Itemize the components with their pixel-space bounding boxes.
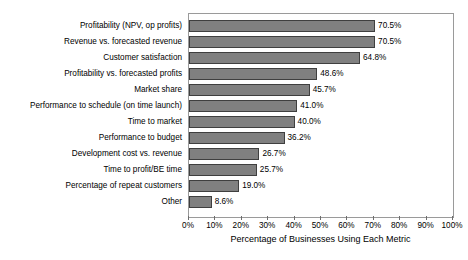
category-label-row: Time to market <box>0 113 185 129</box>
bar-value-label: 40.0% <box>295 116 321 128</box>
bar-value-label: 8.6% <box>212 196 234 208</box>
x-tick-mark <box>426 216 427 220</box>
x-tick-mark <box>188 216 189 220</box>
bar <box>189 116 295 128</box>
bar-row: 26.7% <box>189 146 453 162</box>
category-label-row: Market share <box>0 81 185 97</box>
x-tick-label: 30% <box>259 221 275 231</box>
category-label-row: Profitability (NPV, op profits) <box>0 17 185 33</box>
category-label: Revenue vs. forecasted revenue <box>64 37 185 46</box>
bar-value-label: 25.7% <box>257 164 283 176</box>
bar-chart: Profitability (NPV, op profits)Revenue v… <box>0 0 468 260</box>
bar <box>189 68 317 80</box>
x-tick-label: 0% <box>182 221 194 231</box>
x-tick-label: 70% <box>365 221 381 231</box>
bar-value-label: 26.7% <box>259 148 285 160</box>
category-label-row: Other <box>0 193 185 209</box>
bar-value-label: 36.2% <box>285 132 311 144</box>
bar-row: 45.7% <box>189 82 453 98</box>
bar <box>189 180 239 192</box>
bar-row: 41.0% <box>189 98 453 114</box>
plot-area: 70.5%70.5%64.8%48.6%45.7%41.0%40.0%36.2%… <box>188 13 454 218</box>
x-tick-mark <box>267 216 268 220</box>
x-tick-label: 20% <box>233 221 249 231</box>
x-tick-label: 100% <box>442 221 463 231</box>
x-tick-mark <box>214 216 215 220</box>
bar <box>189 164 257 176</box>
bar-value-label: 41.0% <box>297 100 323 112</box>
category-label: Customer satisfaction <box>103 53 185 62</box>
category-label: Other <box>162 197 185 206</box>
bar-value-label: 70.5% <box>375 36 401 48</box>
x-tick-label: 60% <box>338 221 354 231</box>
bar-row: 8.6% <box>189 194 453 210</box>
x-tick-label: 10% <box>206 221 222 231</box>
x-tick-mark <box>294 216 295 220</box>
x-tick-mark <box>320 216 321 220</box>
bar <box>189 36 375 48</box>
bar-row: 70.5% <box>189 18 453 34</box>
x-tick-mark <box>241 216 242 220</box>
category-label-row: Revenue vs. forecasted revenue <box>0 33 185 49</box>
bar <box>189 52 360 64</box>
bar-row: 70.5% <box>189 34 453 50</box>
category-label: Performance to schedule (on time launch) <box>30 101 185 110</box>
category-label-row: Performance to schedule (on time launch) <box>0 97 185 113</box>
x-tick-label: 90% <box>417 221 433 231</box>
category-label-row: Customer satisfaction <box>0 49 185 65</box>
bar-row: 36.2% <box>189 130 453 146</box>
x-tick-label: 50% <box>312 221 328 231</box>
bar-value-label: 64.8% <box>360 52 386 64</box>
bar <box>189 148 259 160</box>
bar-row: 25.7% <box>189 162 453 178</box>
category-label: Profitability (NPV, op profits) <box>80 21 185 30</box>
bar <box>189 132 285 144</box>
x-tick-mark <box>346 216 347 220</box>
category-label: Performance to budget <box>99 133 185 142</box>
bar-row: 64.8% <box>189 50 453 66</box>
x-tick-mark <box>452 216 453 220</box>
bar <box>189 20 375 32</box>
x-tick-mark <box>373 216 374 220</box>
category-label: Profitability vs. forecasted profits <box>64 69 185 78</box>
category-label: Market share <box>134 85 185 94</box>
bar-value-label: 70.5% <box>375 20 401 32</box>
category-label: Time to market <box>128 117 185 126</box>
x-tick-label: 80% <box>391 221 407 231</box>
category-label: Development cost vs. revenue <box>72 149 185 158</box>
category-label-row: Time to profit/BE time <box>0 161 185 177</box>
bar <box>189 196 212 208</box>
bar-row: 48.6% <box>189 66 453 82</box>
category-label-row: Development cost vs. revenue <box>0 145 185 161</box>
bar-row: 19.0% <box>189 178 453 194</box>
bar-value-label: 45.7% <box>310 84 336 96</box>
category-label-row: Profitability vs. forecasted profits <box>0 65 185 81</box>
category-axis: Profitability (NPV, op profits)Revenue v… <box>0 13 185 216</box>
category-label: Percentage of repeat customers <box>65 181 185 190</box>
category-label-row: Percentage of repeat customers <box>0 177 185 193</box>
x-tick-label: 40% <box>285 221 301 231</box>
bar-row: 40.0% <box>189 114 453 130</box>
bar-value-label: 48.6% <box>317 68 343 80</box>
bar-value-label: 19.0% <box>239 180 265 192</box>
bar <box>189 100 297 112</box>
category-label: Time to profit/BE time <box>104 165 185 174</box>
x-axis-title: Percentage of Businesses Using Each Metr… <box>188 233 453 245</box>
bar <box>189 84 310 96</box>
x-tick-mark <box>399 216 400 220</box>
category-label-row: Performance to budget <box>0 129 185 145</box>
